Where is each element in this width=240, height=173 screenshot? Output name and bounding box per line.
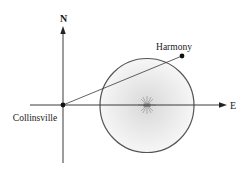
east-label: E [230, 100, 236, 111]
north-label: N [60, 13, 68, 24]
map-diagram: N E Harmony Collinsville [0, 0, 240, 173]
north-axis [60, 26, 65, 163]
harmony-point [180, 54, 185, 59]
east-arrow-icon [219, 102, 227, 107]
north-arrow-icon [60, 26, 65, 34]
collinsville-point [61, 103, 66, 108]
collinsville-label: Collinsville [13, 113, 57, 123]
harmony-label: Harmony [156, 42, 192, 52]
